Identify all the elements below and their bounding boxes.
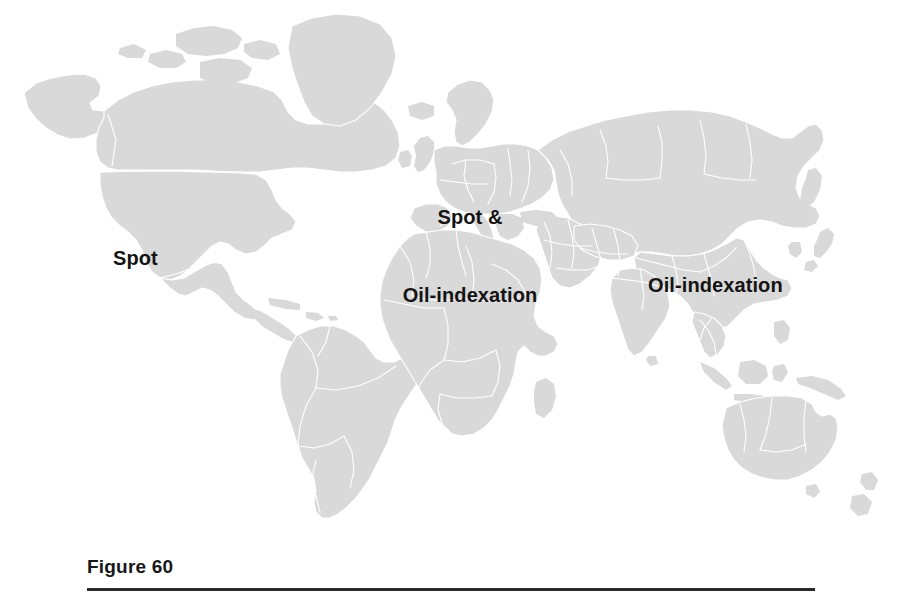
land-central-america (252, 308, 296, 342)
land-hispaniola (306, 312, 324, 321)
land-madagascar (534, 378, 556, 418)
map-label-americas: Spot (113, 193, 158, 323)
land-borneo (738, 360, 768, 384)
land-arctic-islands-7 (118, 44, 146, 58)
map-label-americas-text: Spot (113, 245, 158, 271)
caption-divider-rule (87, 588, 815, 591)
land-iceland (408, 102, 434, 120)
land-cuba (268, 298, 300, 310)
land-new-zealand-north (860, 472, 878, 490)
figure-caption: Figure 60 (87, 556, 173, 578)
land-kamchatka (800, 168, 822, 208)
land-arctic-islands-3 (148, 50, 186, 68)
land-tasmania (806, 484, 820, 498)
land-japan (814, 228, 834, 258)
map-label-asia: Oil-indexation (648, 220, 783, 350)
land-arctic-islands-2 (200, 58, 252, 84)
map-label-europe-line1: Spot & (370, 204, 570, 230)
map-label-asia-text: Oil-indexation (648, 272, 783, 298)
map-label-europe: Spot & Oil-indexation (370, 152, 570, 360)
figure-caption-block: Figure 60 (0, 548, 901, 601)
land-sumatra (700, 362, 732, 390)
land-arctic-islands-1 (176, 26, 242, 56)
land-new-zealand-south (850, 494, 872, 516)
land-puerto-rico (328, 316, 338, 321)
land-arctic-islands-4 (244, 40, 280, 60)
land-new-guinea (796, 376, 846, 400)
land-sri-lanka (646, 356, 658, 366)
land-scandinavia (446, 80, 494, 146)
land-japan-south (804, 260, 818, 272)
land-sulawesi (772, 364, 788, 382)
world-map: Spot Spot & Oil-indexation Oil-indexatio… (0, 0, 901, 545)
land-korea (788, 242, 802, 258)
map-label-europe-line2: Oil-indexation (370, 282, 570, 308)
figure-container: Spot Spot & Oil-indexation Oil-indexatio… (0, 0, 901, 601)
land-australia (722, 396, 838, 480)
